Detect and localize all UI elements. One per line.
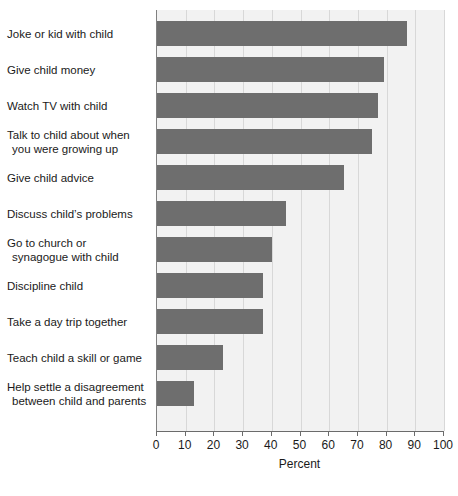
category-label-line: Help settle a disagreement [7,380,144,394]
bar-row: Give child money [157,52,444,88]
x-tick-label: 30 [235,438,248,452]
x-tick [242,431,243,436]
category-label: Joke or kid with child [7,16,157,52]
bar [157,93,378,118]
category-label-line: Discipline child [7,279,83,293]
bar [157,129,372,154]
x-tick [300,431,301,436]
gridline [444,10,445,431]
category-label-line: Talk to child about when [7,128,130,142]
bar [157,381,194,406]
bar-row: Joke or kid with child [157,16,444,52]
category-label: Teach child a skill or game [7,340,157,376]
category-label: Discipline child [7,268,157,304]
x-tick-label: 10 [178,438,191,452]
x-tick-label: 0 [153,438,160,452]
bar-row: Take a day trip together [157,304,444,340]
x-tick [414,431,415,436]
margin-text-fragment [449,372,458,452]
category-label: Talk to child about whenyou were growing… [7,124,157,160]
category-label-line: Give child money [7,63,95,77]
bar-row: Watch TV with child [157,88,444,124]
x-tick [357,431,358,436]
x-tick-label: 80 [379,438,392,452]
category-label-line: Go to church or [7,236,86,250]
category-label-line: synagogue with child [7,250,119,264]
bar-row: Go to church orsynagogue with child [157,232,444,268]
x-axis-title: Percent [156,457,443,471]
category-label-line: Teach child a skill or game [7,351,142,365]
category-label: Discuss child’s problems [7,196,157,232]
category-label: Give child advice [7,160,157,196]
category-label-line: Joke or kid with child [7,27,113,41]
bar-chart: Joke or kid with childGive child moneyWa… [0,0,458,496]
category-label: Give child money [7,52,157,88]
category-label-line: Give child advice [7,171,94,185]
bar-row: Talk to child about whenyou were growing… [157,124,444,160]
x-tick-label: 90 [408,438,421,452]
bar [157,237,272,262]
category-label: Go to church orsynagogue with child [7,232,157,268]
bar [157,201,286,226]
x-tick-label: 20 [207,438,220,452]
bar [157,57,384,82]
x-tick [185,431,186,436]
bar [157,21,407,46]
x-tick [386,431,387,436]
bar [157,345,223,370]
x-tick-label: 60 [322,438,335,452]
category-label-line: Watch TV with child [7,99,107,113]
x-tick-label: 50 [293,438,306,452]
category-label: Take a day trip together [7,304,157,340]
bar-row: Help settle a disagreementbetween child … [157,376,444,412]
x-tick-label: 70 [350,438,363,452]
x-tick [443,431,444,436]
x-tick [213,431,214,436]
bar [157,165,344,190]
bar [157,273,263,298]
category-label-line: you were growing up [7,142,118,156]
x-tick [271,431,272,436]
x-tick-label: 40 [264,438,277,452]
bar-row: Give child advice [157,160,444,196]
plot-area: Joke or kid with childGive child moneyWa… [156,10,444,431]
category-label: Help settle a disagreementbetween child … [7,376,157,412]
category-label-line: Take a day trip together [7,315,127,329]
category-label: Watch TV with child [7,88,157,124]
bar [157,309,263,334]
category-label-line: between child and parents [7,394,146,408]
category-label-line: Discuss child’s problems [7,207,133,221]
x-tick [328,431,329,436]
bar-row: Discipline child [157,268,444,304]
bar-rows: Joke or kid with childGive child moneyWa… [157,10,444,431]
x-tick [156,431,157,436]
bar-row: Discuss child’s problems [157,196,444,232]
bar-row: Teach child a skill or game [157,340,444,376]
